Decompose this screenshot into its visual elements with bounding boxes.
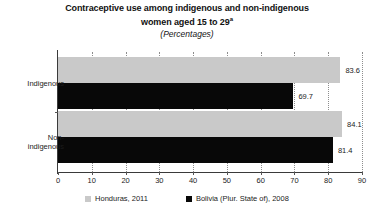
x-axis-tick xyxy=(261,172,262,175)
x-axis-tick xyxy=(159,172,160,175)
category-label-non-indigenous: Non- indigenous xyxy=(4,133,64,151)
bar-value-label: 83.6 xyxy=(345,66,360,75)
category-label-line: Non- xyxy=(4,133,64,142)
x-axis-tick xyxy=(193,172,194,175)
x-axis-tick-label: 90 xyxy=(350,176,374,185)
bar-value-label: 69.7 xyxy=(298,92,313,101)
legend-item-honduras[interactable]: Honduras, 2011 xyxy=(85,194,148,203)
legend-item-bolivia[interactable]: Bolivia (Plur. State of), 2008 xyxy=(186,194,289,203)
plot-area xyxy=(58,52,362,172)
bar-value-label: 84.1 xyxy=(347,120,362,129)
x-axis-tick xyxy=(92,172,93,175)
x-axis-tick-label: 10 xyxy=(80,176,104,185)
x-axis-tick-label: 30 xyxy=(147,176,171,185)
x-axis-tick-label: 50 xyxy=(215,176,239,185)
chart-legend: Honduras, 2011 Bolivia (Plur. State of),… xyxy=(0,194,374,203)
category-label-line: Indigenous xyxy=(4,79,64,88)
x-axis-tick xyxy=(126,172,127,175)
bar-non-indigenous-bolivia xyxy=(58,137,333,163)
x-axis-tick-label: 20 xyxy=(114,176,138,185)
legend-label: Bolivia (Plur. State of), 2008 xyxy=(196,194,289,203)
bar-value-label: 81.4 xyxy=(338,146,353,155)
category-label-indigenous: Indigenous xyxy=(4,79,64,88)
x-axis-tick-label: 80 xyxy=(316,176,340,185)
category-label-line: indigenous xyxy=(4,142,64,151)
x-axis-tick xyxy=(227,172,228,175)
bar-indigenous-honduras xyxy=(58,57,340,83)
x-axis-tick-label: 0 xyxy=(46,176,70,185)
legend-swatch-icon xyxy=(85,196,91,202)
x-axis-tick-label: 60 xyxy=(249,176,273,185)
x-axis-tick xyxy=(294,172,295,175)
bar-indigenous-bolivia xyxy=(58,83,293,109)
x-axis-tick-label: 70 xyxy=(282,176,306,185)
gridline xyxy=(362,52,363,172)
legend-swatch-icon xyxy=(186,196,192,202)
x-axis-tick xyxy=(328,172,329,175)
legend-label: Honduras, 2011 xyxy=(95,194,148,203)
x-axis-line xyxy=(57,172,363,173)
bar-non-indigenous-honduras xyxy=(58,111,342,137)
x-axis-tick xyxy=(58,172,59,175)
x-axis-tick-label: 40 xyxy=(181,176,205,185)
chart-plot-wrapper: Indigenous Non- indigenous 0102030405060… xyxy=(0,0,374,215)
x-axis-tick xyxy=(362,172,363,175)
